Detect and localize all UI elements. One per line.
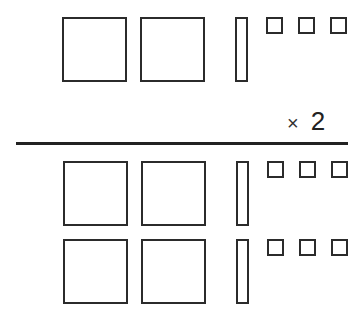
- hundred-flat: [63, 239, 128, 304]
- hundred-flat: [63, 161, 128, 226]
- hundred-flat: [141, 239, 206, 304]
- one-unit: [267, 161, 284, 178]
- one-unit: [266, 17, 283, 34]
- ten-rod: [236, 239, 249, 304]
- one-unit: [298, 17, 315, 34]
- times-sign: ×: [287, 112, 299, 135]
- multiplier-label: × 2: [287, 106, 325, 138]
- one-unit: [330, 17, 347, 34]
- ten-rod: [235, 17, 248, 82]
- multiplier-factor: 2: [311, 106, 325, 137]
- one-unit: [331, 161, 348, 178]
- one-unit: [299, 161, 316, 178]
- result-divider-line: [16, 142, 348, 145]
- hundred-flat: [140, 17, 205, 82]
- hundred-flat: [62, 17, 127, 82]
- one-unit: [331, 239, 348, 256]
- ten-rod: [236, 161, 249, 226]
- one-unit: [299, 239, 316, 256]
- one-unit: [267, 239, 284, 256]
- hundred-flat: [141, 161, 206, 226]
